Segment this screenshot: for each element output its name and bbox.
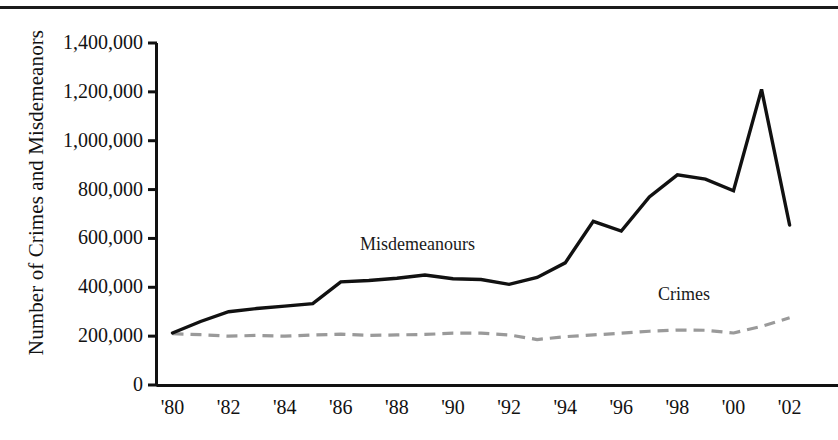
- x-tick-label: '92: [479, 396, 539, 418]
- x-tick-label: '98: [647, 396, 707, 418]
- x-tick-label: '96: [591, 396, 651, 418]
- x-tick-label: '86: [311, 396, 371, 418]
- chart-figure: Number of Crimes and Misdemeanors 1,400,…: [0, 0, 838, 440]
- x-axis-tick-labels: '80'82'84'86'88'90'92'94'96'98'00'02: [0, 0, 838, 440]
- x-tick-label: '00: [704, 396, 764, 418]
- x-tick-label: '90: [423, 396, 483, 418]
- series-annotation-misdemeanours: Misdemeanours: [360, 234, 475, 254]
- series-annotation-crimes: Crimes: [658, 284, 710, 304]
- x-tick-label: '94: [535, 396, 595, 418]
- x-tick-label: '80: [143, 396, 203, 418]
- x-tick-label: '02: [760, 396, 820, 418]
- x-tick-label: '88: [367, 396, 427, 418]
- x-tick-label: '84: [255, 396, 315, 418]
- x-tick-label: '82: [199, 396, 259, 418]
